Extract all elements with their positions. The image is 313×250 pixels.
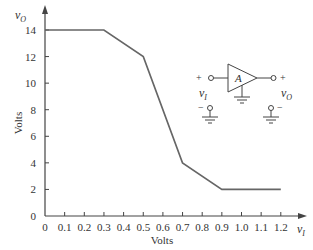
amplifier-inset: + A + vI vO − − [196,64,292,123]
x-tick-label: 0.2 [77,221,91,233]
y-tick-label: 12 [25,51,36,63]
input-terminal-minus [208,106,213,111]
x-tick-label: 0.5 [136,221,150,233]
x-tick-label: 1.1 [254,221,268,233]
y-tick-label: 14 [25,24,37,36]
y-tick-label: 8 [31,104,37,116]
y-tick-label: 2 [31,183,37,195]
y-tick-label: 10 [25,77,37,89]
x-tick-label: 0.9 [215,221,229,233]
y-axis-title: Volts [12,112,24,134]
x-tick-label: 1.0 [235,221,249,233]
input-voltage-label: vI [199,86,207,102]
y-tick-label: 6 [31,130,37,142]
x-tick-label: 0.1 [58,221,72,233]
output-minus-sign: − [277,102,283,113]
x-tick-label: 0.7 [176,221,190,233]
x-axis-variable: vI [297,222,305,238]
transfer-curve [45,30,281,189]
amplifier-label: A [234,72,242,84]
output-terminal-minus [269,106,274,111]
x-tick-label: 0.3 [97,221,111,233]
axes [42,5,307,219]
x-tick-label: 0.8 [195,221,209,233]
data-series [45,30,281,189]
x-axis-title: Volts [151,234,173,246]
x-tick-label: 0.6 [156,221,170,233]
x-tick-label: 0 [42,221,48,233]
output-plus-sign: + [280,72,286,83]
x-axis-ticks: 00.10.20.30.40.50.60.70.80.91.01.11.2 [42,212,287,233]
x-tick-label: 1.2 [274,221,288,233]
y-tick-label: 0 [31,210,37,222]
y-axis-variable: vO [15,8,26,24]
output-voltage-label: vO [281,86,292,102]
output-terminal-plus [271,76,276,81]
input-minus-sign: − [198,102,204,113]
input-plus-sign: + [196,72,202,83]
input-terminal-plus [209,76,214,81]
y-tick-label: 4 [31,157,37,169]
transfer-characteristic-chart: 02468101214 00.10.20.30.40.50.60.70.80.9… [0,0,313,250]
x-tick-label: 0.4 [117,221,131,233]
